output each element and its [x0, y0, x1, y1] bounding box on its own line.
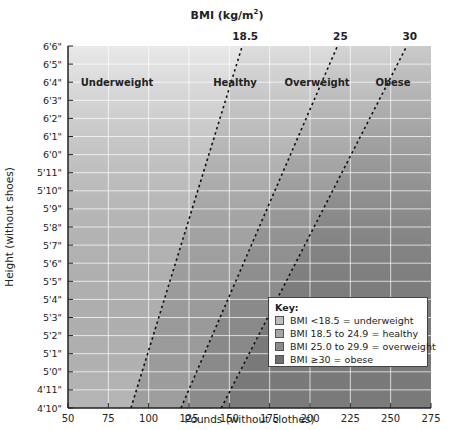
y-tick-label: 5'1" — [43, 348, 62, 359]
legend-item-underweight: BMI <18.5 = underweight — [275, 314, 421, 327]
legend-item-overweight: BMI 25.0 to 29.9 = overweight — [275, 340, 421, 353]
y-tick-label: 5'6" — [43, 258, 62, 269]
y-tick-label: 4'11" — [37, 384, 62, 395]
zone-label-underweight: Underweight — [81, 77, 154, 88]
y-tick-label: 5'4" — [43, 294, 62, 305]
x-tick-label: 50 — [62, 413, 75, 424]
legend-label: BMI 18.5 to 24.9 = healthy — [290, 327, 418, 340]
y-tick-label: 6'5" — [43, 59, 62, 70]
x-tick-label: 225 — [341, 413, 360, 424]
y-tick-label: 6'3" — [43, 95, 62, 106]
x-tick-label: 250 — [381, 413, 400, 424]
legend-swatch — [275, 355, 284, 364]
y-tick-label: 6'0" — [43, 149, 62, 160]
y-tick-label: 5'5" — [43, 276, 62, 287]
y-tick-label: 5'0" — [43, 366, 62, 377]
x-tick-label: 75 — [102, 413, 115, 424]
zone-label-overweight: Overweight — [284, 77, 349, 88]
legend-label: BMI 25.0 to 29.9 = overweight — [290, 340, 436, 353]
legend-item-obese: BMI ≥30 = obese — [275, 353, 421, 366]
x-tick-label: 100 — [139, 413, 158, 424]
legend-swatch — [275, 329, 284, 338]
y-tick-label: 5'3" — [43, 312, 62, 323]
y-axis-title: Height (without shoes) — [3, 167, 15, 287]
legend-label: BMI <18.5 = underweight — [290, 314, 414, 327]
y-tick-label: 5'2" — [43, 330, 62, 341]
legend-label: BMI ≥30 = obese — [290, 353, 373, 366]
bmi-line-label: 18.5 — [232, 30, 258, 42]
legend-swatch — [275, 342, 284, 351]
legend-item-healthy: BMI 18.5 to 24.9 = healthy — [275, 327, 421, 340]
bmi-line-label: 30 — [402, 30, 417, 42]
y-tick-label: 6'2" — [43, 113, 62, 124]
legend: Key: BMI <18.5 = underweight BMI 18.5 to… — [268, 297, 428, 367]
bmi-line-label: 25 — [333, 30, 348, 42]
y-tick-label: 4'10" — [37, 403, 62, 414]
y-tick-label: 5'8" — [43, 222, 62, 233]
y-tick-label: 5'10" — [37, 185, 62, 196]
y-tick-label: 5'11" — [37, 167, 62, 178]
zone-label-healthy: Healthy — [213, 77, 257, 88]
y-tick-label: 6'4" — [43, 77, 62, 88]
y-tick-label: 5'7" — [43, 240, 62, 251]
legend-title: Key: — [275, 301, 421, 314]
zone-label-obese: Obese — [375, 77, 410, 88]
legend-swatch — [275, 316, 284, 325]
y-tick-label: 6'1" — [43, 131, 62, 142]
x-tick-label: 275 — [421, 413, 440, 424]
x-axis-title: Pounds (without clothes) — [185, 413, 315, 425]
y-tick-label: 5'9" — [43, 203, 62, 214]
y-tick-label: 6'6" — [43, 41, 62, 52]
